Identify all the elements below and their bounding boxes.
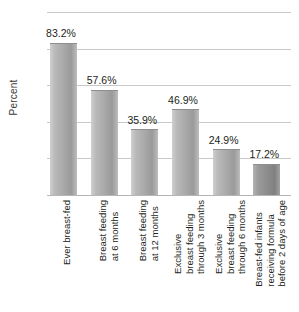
bar-breast-feeding-12-months bbox=[131, 129, 158, 195]
x-axis-label-breast-feeding-6-months: Breast feeding at 6 months bbox=[96, 200, 119, 261]
bar-breast-feeding-6-months bbox=[91, 90, 118, 195]
bar-slot-4: 24.9% bbox=[210, 12, 250, 195]
bar-value-3: 46.9% bbox=[160, 95, 206, 106]
x-label-line: Exclusive bbox=[172, 200, 184, 274]
x-label-slot-4: Exclusive breast feeding through 6 month… bbox=[210, 198, 250, 312]
bar-formula-before-2-days bbox=[253, 164, 280, 195]
bar-value-2: 35.9% bbox=[119, 115, 165, 126]
x-axis-label-exclusive-3-months: Exclusive breast feeding through 3 month… bbox=[172, 200, 207, 274]
x-label-slot-1: Breast feeding at 6 months bbox=[88, 198, 128, 312]
x-axis-label-formula-before-2-days: Breast-fed infants receiving formula bef… bbox=[253, 200, 288, 287]
x-axis-label-exclusive-6-months: Exclusive breast feeding through 6 month… bbox=[212, 200, 247, 274]
x-label-line: breast feeding bbox=[224, 200, 236, 274]
bar-exclusive-6-months bbox=[213, 149, 240, 195]
y-axis-title: Percent bbox=[8, 63, 19, 133]
bar-slot-0: 83.2% bbox=[47, 12, 87, 195]
x-label-slot-3: Exclusive breast feeding through 3 month… bbox=[169, 198, 209, 312]
x-label-line: through 3 months bbox=[195, 200, 207, 274]
bar-value-1: 57.6% bbox=[79, 75, 125, 86]
x-axis-label-breast-feeding-12-months: Breast feeding at 12 months bbox=[137, 200, 160, 261]
x-label-line: at 12 months bbox=[148, 200, 160, 261]
gridline-0 bbox=[47, 195, 291, 196]
bar-value-5: 17.2% bbox=[241, 149, 287, 160]
x-label-line: before 2 days of age bbox=[276, 200, 288, 287]
bar-slot-5: 17.2% bbox=[250, 12, 290, 195]
x-label-line: breast feeding bbox=[183, 200, 195, 274]
x-label-line: through 6 months bbox=[235, 200, 247, 274]
x-label-slot-5: Breast-fed infants receiving formula bef… bbox=[250, 198, 290, 312]
bars-layer: 83.2% 57.6% 35.9% 46.9% 24.9% 17.2% bbox=[47, 12, 291, 195]
x-axis-labels: Ever breast-fed Breast feeding at 6 mont… bbox=[47, 198, 291, 312]
x-label-slot-2: Breast feeding at 12 months bbox=[128, 198, 168, 312]
x-label-line: Ever breast-fed bbox=[61, 200, 73, 265]
bar-chart: Percent 100 80 60 40 20 0 83.2% 57.6% 35… bbox=[0, 0, 299, 312]
x-label-line: at 6 months bbox=[108, 200, 120, 261]
bar-value-4: 24.9% bbox=[201, 135, 247, 146]
x-label-slot-0: Ever breast-fed bbox=[47, 198, 87, 312]
bar-value-0: 83.2% bbox=[38, 28, 84, 39]
x-label-line: Breast-fed infants bbox=[253, 200, 265, 287]
bar-exclusive-3-months bbox=[172, 109, 199, 195]
x-label-line: Exclusive bbox=[212, 200, 224, 274]
bar-slot-1: 57.6% bbox=[88, 12, 128, 195]
bar-slot-3: 46.9% bbox=[169, 12, 209, 195]
x-label-line: Breast feeding bbox=[96, 200, 108, 261]
x-axis-label-ever-breast-fed: Ever breast-fed bbox=[61, 200, 73, 265]
bar-ever-breast-fed bbox=[50, 43, 77, 195]
x-label-line: receiving formula bbox=[265, 200, 277, 287]
x-label-line: Breast feeding bbox=[137, 200, 149, 261]
